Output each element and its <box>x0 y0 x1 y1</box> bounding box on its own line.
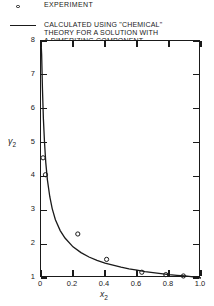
y-tick-label: 2 <box>0 239 35 247</box>
x-tick-label: 0 <box>27 280 53 288</box>
figure: EXPERIMENT CALCULATED USING "CHEMICAL" T… <box>0 0 214 306</box>
legend-entry-experiment: EXPERIMENT <box>6 2 158 11</box>
y-tick-label: 5 <box>0 138 35 146</box>
x-tick-label: 0.8 <box>155 280 181 288</box>
y-tick-label: 6 <box>0 104 35 112</box>
open-circle-marker-icon <box>16 5 20 9</box>
legend-calc-line-1: CALCULATED USING "CHEMICAL" <box>44 21 162 28</box>
calculated-theory-curve <box>41 41 201 278</box>
y-tick-label: 3 <box>0 205 35 213</box>
solid-line-marker-icon <box>10 25 36 27</box>
experiment-data-points <box>41 156 186 278</box>
data-point <box>105 257 109 261</box>
y-tick-label: 8 <box>0 36 35 44</box>
x-tick-label: 1.0 <box>187 280 213 288</box>
chart-canvas <box>41 41 201 278</box>
y-tick-label: 4 <box>0 171 35 179</box>
plot-area <box>40 40 200 277</box>
x-tick-label: 0.6 <box>123 280 149 288</box>
data-point <box>76 232 80 236</box>
x-tick-label: 0.2 <box>59 280 85 288</box>
y-tick-label: 7 <box>0 70 35 78</box>
x-tick-label: 0.4 <box>91 280 117 288</box>
data-point <box>41 156 45 160</box>
legend-experiment-label: EXPERIMENT <box>44 1 93 8</box>
x-axis-title: x2 <box>100 289 108 301</box>
legend-calc-line-2: THEORY FOR A SOLUTION WITH <box>44 29 158 36</box>
